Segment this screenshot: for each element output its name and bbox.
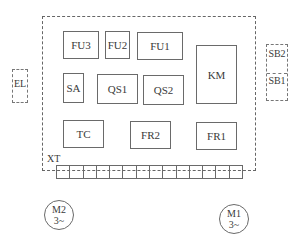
terminal-cell: [84, 166, 97, 178]
component-label: FR1: [207, 130, 226, 142]
motor-m2: M2 3~: [44, 200, 74, 230]
motor-phase: 3~: [54, 215, 64, 226]
button-label-sb1: SB1: [267, 75, 287, 86]
component-label: QS2: [154, 84, 174, 96]
component-label: KM: [208, 69, 226, 81]
terminal-cell: [190, 166, 203, 178]
terminal-block-label: XT: [47, 153, 60, 164]
terminal-cell: [137, 166, 150, 178]
terminal-cell: [216, 166, 229, 178]
component-qs2: QS2: [143, 75, 184, 105]
component-tc: TC: [63, 120, 104, 148]
component-label: FU1: [150, 40, 170, 52]
component-fu3: FU3: [63, 31, 99, 59]
terminal-cell: [230, 166, 243, 178]
terminal-cell: [177, 166, 190, 178]
component-label: QS1: [108, 83, 128, 95]
component-label: FU3: [71, 39, 91, 51]
terminal-cell: [70, 166, 83, 178]
component-label: FU2: [108, 39, 128, 51]
component-sa: SA: [63, 73, 84, 103]
lamp-label: EL: [13, 78, 27, 89]
terminal-cell: [97, 166, 110, 178]
terminal-block-xt: [56, 165, 243, 179]
component-qs1: QS1: [97, 74, 138, 104]
terminal-cell: [57, 166, 70, 178]
component-fu1: FU1: [137, 32, 183, 60]
component-fr1: FR1: [196, 122, 237, 150]
terminal-cell: [163, 166, 176, 178]
terminal-cell: [203, 166, 216, 178]
component-label: TC: [76, 128, 90, 140]
terminal-cell: [150, 166, 163, 178]
component-fu2: FU2: [105, 31, 130, 59]
terminal-cell: [110, 166, 123, 178]
component-label: SA: [66, 82, 80, 94]
component-km: KM: [196, 45, 237, 104]
terminal-cell: [123, 166, 136, 178]
button-label-sb2: SB2: [267, 48, 287, 59]
component-fr2: FR2: [130, 121, 171, 149]
motor-m1: M1 3~: [219, 204, 249, 234]
external-button-station: SB2 SB1: [266, 44, 288, 101]
motor-phase: 3~: [229, 219, 239, 230]
motor-name: M1: [227, 208, 241, 219]
external-lamp-el: EL: [12, 69, 28, 103]
button-divider: [267, 73, 287, 74]
component-label: FR2: [141, 129, 160, 141]
motor-name: M2: [52, 204, 66, 215]
